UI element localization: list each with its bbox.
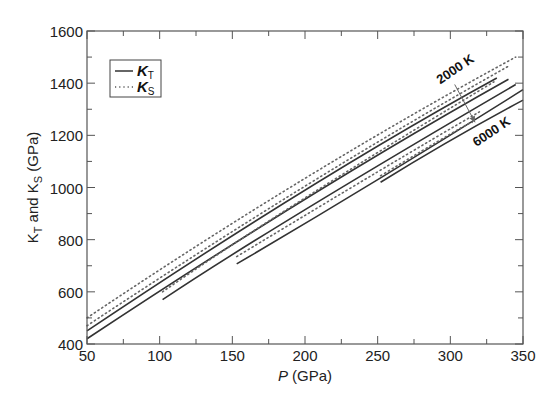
y-axis-title-unit: (GPa) (24, 132, 41, 176)
y-tick-label: 1000 (50, 180, 83, 197)
x-tick-label: 300 (438, 347, 463, 364)
legend-ks-sub: S (148, 86, 155, 97)
y-axis-title-sub-s: S (32, 176, 44, 183)
chart: 5010015020025030035040060080010001200140… (0, 0, 546, 408)
x-tick-label: 100 (147, 347, 172, 364)
x-tick-label: 200 (292, 347, 317, 364)
y-axis-title-k: K (24, 233, 41, 243)
x-axis-title-var: P (278, 367, 288, 384)
kt-line-1 (87, 79, 508, 339)
legend: KT KS (110, 60, 161, 97)
kt-line-2 (163, 84, 516, 299)
x-axis-title-unit: (GPa) (288, 367, 332, 384)
kt-line-3 (237, 90, 523, 264)
y-tick-label: 1200 (50, 127, 83, 144)
x-tick-label: 350 (510, 347, 535, 364)
x-tick-label: 150 (220, 347, 245, 364)
ks-line-1 (87, 66, 508, 326)
x-tick-label: 250 (365, 347, 390, 364)
ks-line-2 (163, 82, 494, 292)
y-tick-label: 800 (58, 232, 83, 249)
y-tick-label: 1400 (50, 75, 83, 92)
x-axis-title: P (GPa) (278, 367, 332, 384)
y-tick-label: 400 (58, 336, 83, 353)
kt-line-0 (87, 78, 497, 331)
legend-kt-sub: T (148, 70, 154, 81)
y-axis-title-and: and K (24, 183, 41, 226)
y-tick-label: 1600 (50, 23, 83, 40)
y-axis-title: KT and KS (GPa) (24, 132, 44, 244)
series-layer (87, 57, 523, 339)
ks-line-3 (237, 112, 480, 257)
y-tick-label: 600 (58, 284, 83, 301)
